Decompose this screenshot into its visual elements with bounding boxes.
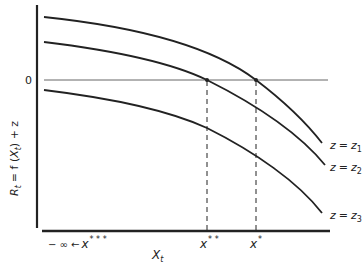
marker-x-star: x* — [249, 235, 262, 251]
y-axis-label: Rt= f (Xt) + z — [8, 121, 23, 196]
svg-text:Rt= f (Xt) + z: Rt= f (Xt) + z — [8, 121, 23, 196]
marker-x-double-star: x* * — [199, 235, 219, 251]
diagram: 0 z=z1 z=z2 z=z3 − ∞ ←x* * * x* * x* Xt … — [0, 0, 364, 266]
zero-label: 0 — [25, 74, 32, 87]
svg-text:x*: x* — [249, 235, 262, 251]
svg-text:− ∞ ←x* * *: − ∞ ←x* * * — [48, 235, 107, 251]
curve-z3 — [44, 90, 322, 213]
svg-text:x* *: x* * — [199, 235, 219, 251]
marker-x-triple-star: − ∞ ←x* * * — [48, 235, 107, 251]
svg-text:Xt: Xt — [151, 248, 164, 264]
svg-text:z=z2: z=z2 — [329, 161, 362, 176]
curve-label-z2: z=z2 — [329, 161, 362, 176]
svg-text:z=z1: z=z1 — [329, 139, 362, 154]
curve-label-z3: z=z3 — [329, 209, 362, 224]
curve-label-z1: z=z1 — [329, 139, 362, 154]
x-axis-label: Xt — [151, 248, 164, 264]
curve-z2 — [44, 42, 325, 165]
svg-text:z=z3: z=z3 — [329, 209, 362, 224]
